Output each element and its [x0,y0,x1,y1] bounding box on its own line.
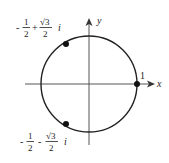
label-lower-sign: - [20,136,23,147]
label-upper-num2: √3 [40,17,50,27]
x-axis-label: x [156,78,162,89]
label-lower-den1: 2 [28,143,33,153]
label-lower-num2: √3 [46,131,56,141]
label-upper-unit: i [58,22,61,33]
y-axis-label: y [96,15,102,26]
label-lower-num1: 1 [28,131,33,141]
label-lower-op: - [38,136,41,147]
point-root-lower [63,121,69,127]
label-lower-den2: 2 [49,143,54,153]
label-upper-den2: 2 [43,29,48,39]
label-upper-sign: - [16,22,19,33]
point-root-upper [63,41,69,47]
unit-circle-diagram: x y 1 - 1 2 + √3 2 i - 1 2 - √3 2 i [0,0,169,163]
label-upper-den1: 2 [24,29,29,39]
label-lower-unit: i [64,136,67,147]
point-root-1 [134,81,140,87]
label-root-1: 1 [140,70,145,81]
label-root-lower: - 1 2 - √3 2 i [20,131,67,153]
label-upper-num1: 1 [24,17,29,27]
label-root-upper: - 1 2 + √3 2 i [16,17,61,39]
label-upper-op: + [32,22,38,33]
